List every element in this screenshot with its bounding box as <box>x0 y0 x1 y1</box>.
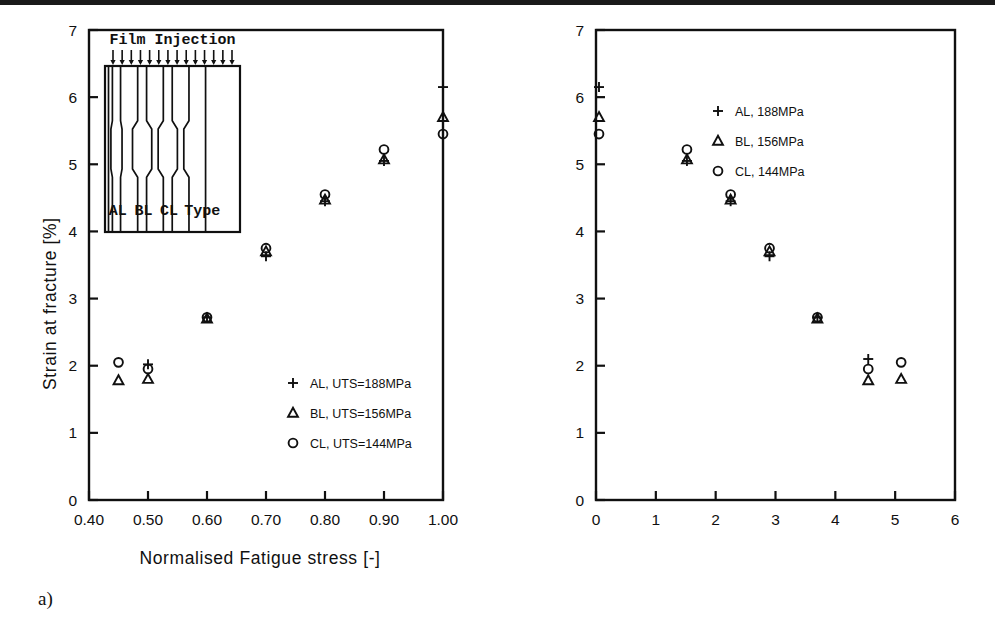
inset-injection-arrow-icon <box>184 60 189 65</box>
x-axis-tick-label: 0 <box>592 511 601 528</box>
legend: AL, UTS=188MPaBL, UTS=156MPaCL, UTS=144M… <box>288 377 412 451</box>
legend-label: CL, 144MPa <box>735 165 805 179</box>
y-axis-tick-label: 1 <box>68 424 77 441</box>
legend-label: BL, 156MPa <box>735 135 804 149</box>
y-axis-tick-label: 5 <box>575 156 584 173</box>
data-point-triangle <box>114 375 124 384</box>
inset-title: Film Injection <box>109 32 235 49</box>
panel-a-caption: a) <box>38 588 53 610</box>
y-axis-tick-label: 0 <box>68 492 77 509</box>
x-axis-tick-label: 1 <box>652 511 661 528</box>
legend-label: BL, UTS=156MPa <box>310 407 411 421</box>
legend-circle-marker <box>289 439 298 448</box>
scientific-figure: 012345670.400.500.600.700.800.901.00Film… <box>0 0 995 638</box>
x-axis-tick-label: 0.40 <box>74 511 105 528</box>
y-axis-tick-label: 2 <box>68 357 77 374</box>
inset-injection-arrow-icon <box>110 60 115 65</box>
y-axis-tick-label: 6 <box>68 89 77 106</box>
inset-specimen-diagram: Film InjectionALBLCLType <box>105 32 240 232</box>
inset-specimen-label: Type <box>184 203 220 220</box>
legend-triangle-marker <box>288 408 298 417</box>
inset-injection-arrow-icon <box>220 60 225 65</box>
inset-injection-arrow-icon <box>193 60 198 65</box>
y-axis-tick-label: 3 <box>575 290 584 307</box>
inset-injection-arrow-icon <box>202 60 207 65</box>
y-axis-tick-label: 4 <box>575 223 584 240</box>
y-axis-tick-label: 7 <box>68 22 77 39</box>
x-axis-tick-label: 0.90 <box>369 511 400 528</box>
inset-injection-arrow-icon <box>174 60 179 65</box>
x-axis-tick-label: 0.50 <box>133 511 164 528</box>
legend-triangle-marker <box>713 136 723 145</box>
legend-label: AL, 188MPa <box>735 105 804 119</box>
y-axis-tick-label: 3 <box>68 290 77 307</box>
inset-specimen-label: BL <box>134 203 152 220</box>
y-axis-tick-label: 2 <box>575 357 584 374</box>
y-axis-tick-label: 5 <box>68 156 77 173</box>
data-point-triangle <box>863 375 873 384</box>
inset-injection-arrow-icon <box>129 60 134 65</box>
y-axis-tick-label: 6 <box>575 89 584 106</box>
y-axis-tick-label: 0 <box>575 492 584 509</box>
panel-a: 012345670.400.500.600.700.800.901.00Film… <box>0 0 500 638</box>
inset-injection-arrow-icon <box>156 60 161 65</box>
panel-b: 012345670123456AL, 188MPaBL, 156MPaCL, 1… <box>500 0 995 638</box>
plot-frame <box>596 30 955 500</box>
data-point-triangle <box>143 374 153 383</box>
x-axis-tick-label: 0.80 <box>310 511 341 528</box>
panel-a-x-axis-label: Normalised Fatigue stress [-] <box>60 548 460 569</box>
legend-circle-marker <box>714 167 723 176</box>
x-axis-tick-label: 6 <box>951 511 960 528</box>
plot-a-canvas: 012345670.400.500.600.700.800.901.00Film… <box>0 0 500 638</box>
data-series-plus <box>594 82 873 364</box>
data-point-circle <box>114 358 123 367</box>
x-axis-tick-label: 0.70 <box>251 511 282 528</box>
x-axis-tick-label: 4 <box>831 511 840 528</box>
inset-injection-arrow-icon <box>147 60 152 65</box>
inset-injection-arrow-icon <box>211 60 216 65</box>
legend-label: AL, UTS=188MPa <box>310 377 411 391</box>
plot-b-canvas: 012345670123456AL, 188MPaBL, 156MPaCL, 1… <box>500 0 995 638</box>
y-axis-tick-label: 1 <box>575 424 584 441</box>
data-point-circle <box>897 358 906 367</box>
x-axis-tick-label: 5 <box>891 511 900 528</box>
data-point-triangle <box>896 374 906 383</box>
data-series-triangle <box>594 112 906 384</box>
panel-a-y-axis-label: Strain at fracture [%] <box>40 217 61 390</box>
y-axis-tick-label: 7 <box>575 22 584 39</box>
x-axis-tick-label: 3 <box>771 511 780 528</box>
inset-injection-arrow-icon <box>165 60 170 65</box>
data-point-circle <box>864 365 873 374</box>
inset-injection-arrow-icon <box>229 60 234 65</box>
y-axis-tick-label: 4 <box>68 223 77 240</box>
legend-label: CL, UTS=144MPa <box>310 437 412 451</box>
x-axis-tick-label: 0.60 <box>192 511 223 528</box>
inset-specimen-label: AL <box>109 203 127 220</box>
x-axis-tick-label: 1.00 <box>428 511 459 528</box>
x-axis-tick-label: 2 <box>711 511 720 528</box>
inset-injection-arrow-icon <box>120 60 125 65</box>
inset-injection-arrow-icon <box>138 60 143 65</box>
inset-specimen-label: CL <box>160 203 178 220</box>
legend: AL, 188MPaBL, 156MPaCL, 144MPa <box>713 105 805 179</box>
